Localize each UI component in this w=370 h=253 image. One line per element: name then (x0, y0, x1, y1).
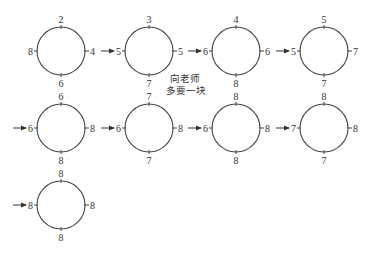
label-left: 6 (116, 123, 121, 134)
label-left: 8 (28, 46, 33, 57)
label-bottom: 8 (59, 232, 64, 243)
label-right: 5 (178, 46, 183, 57)
label-left: 6 (203, 46, 208, 57)
label-right: 6 (265, 46, 270, 57)
label-left: 7 (291, 123, 296, 134)
label-left: 6 (28, 123, 33, 134)
circle-shape (300, 104, 348, 152)
circles-layer: 268437554866575768687768886887788888 (13, 14, 358, 243)
label-left: 5 (116, 46, 121, 57)
label-bottom: 7 (147, 78, 152, 89)
note-line-1: 向老师 (170, 73, 200, 84)
label-left: 6 (203, 123, 208, 134)
label-top: 7 (147, 91, 152, 102)
label-top: 8 (59, 168, 64, 179)
label-left: 8 (28, 200, 33, 211)
label-bottom: 7 (322, 155, 327, 166)
label-top: 8 (322, 91, 327, 102)
label-bottom: 8 (234, 155, 239, 166)
label-bottom: 6 (59, 78, 64, 89)
circle-node-6: 7768 (101, 91, 183, 166)
label-top: 3 (147, 14, 152, 25)
label-left: 5 (291, 46, 296, 57)
label-top: 4 (234, 14, 239, 25)
label-right: 4 (90, 46, 95, 57)
label-top: 8 (234, 91, 239, 102)
label-top: 2 (59, 14, 64, 25)
label-right: 8 (178, 123, 183, 134)
circle-shape (37, 104, 85, 152)
circle-node-9: 8888 (13, 168, 95, 243)
label-bottom: 7 (322, 78, 327, 89)
circle-shape (125, 27, 173, 75)
circle-node-8: 8778 (276, 91, 358, 166)
circle-node-3: 4866 (188, 14, 270, 89)
circle-shape (212, 104, 260, 152)
label-top: 6 (59, 91, 64, 102)
label-bottom: 8 (59, 155, 64, 166)
label-right: 8 (90, 123, 95, 134)
label-right: 8 (353, 123, 358, 134)
circle-node-4: 5757 (276, 14, 358, 89)
label-bottom: 7 (147, 155, 152, 166)
circle-node-1: 2684 (28, 14, 95, 89)
label-top: 5 (322, 14, 327, 25)
label-bottom: 8 (234, 78, 239, 89)
label-right: 8 (265, 123, 270, 134)
circle-node-5: 6868 (13, 91, 95, 166)
label-right: 7 (353, 46, 358, 57)
circle-shape (37, 27, 85, 75)
note-line-2: 多要一块 (166, 85, 206, 96)
circle-shape (125, 104, 173, 152)
circle-sequence-diagram: 268437554866575768687768886887788888 向老师… (0, 0, 370, 253)
label-right: 8 (90, 200, 95, 211)
circle-shape (300, 27, 348, 75)
circle-node-7: 8868 (188, 91, 270, 166)
circle-shape (37, 181, 85, 229)
circle-shape (212, 27, 260, 75)
